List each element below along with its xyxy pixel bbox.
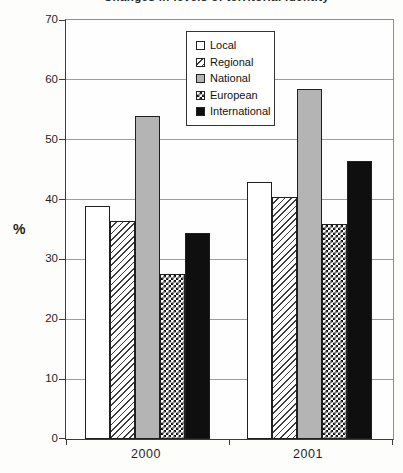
y-axis-tick-label-40: 40 <box>0 192 58 206</box>
y-axis-tick-label-60: 60 <box>0 72 58 86</box>
legend-label-regional: Regional <box>210 57 253 68</box>
x-axis-tick-2 <box>392 439 393 445</box>
y-axis-tick-label-30: 30 <box>0 251 58 265</box>
legend-item-regional: Regional <box>196 57 274 68</box>
bar-chart-figure: Changes in levels of territorial identit… <box>0 0 403 473</box>
y-axis-tick-label-0: 0 <box>0 431 58 445</box>
plot-area: LocalRegionalNationalEuropeanInternation… <box>65 19 394 440</box>
y-axis-tick-label-20: 20 <box>0 311 58 325</box>
y-axis-tick-label-50: 50 <box>0 132 58 146</box>
y-axis-tick-60 <box>59 79 66 80</box>
figure-title-text: Changes in levels of territorial identit… <box>30 0 403 3</box>
legend-label-european: European <box>210 90 258 101</box>
x-axis-label-2000: 2000 <box>131 447 161 461</box>
bar-national-2000 <box>135 116 160 439</box>
y-axis-tick-70 <box>59 20 66 21</box>
bar-regional-2001 <box>272 197 297 439</box>
legend-swatch-local <box>196 41 205 50</box>
bar-local-2001 <box>247 182 272 439</box>
bar-international-2001 <box>347 161 372 439</box>
legend-swatch-national <box>196 74 205 83</box>
y-axis-tick-0 <box>59 438 66 439</box>
bar-european-2001 <box>322 224 347 439</box>
legend-label-national: National <box>210 73 250 84</box>
y-axis-tick-10 <box>59 379 66 380</box>
legend-item-international: International <box>196 106 274 117</box>
y-axis-tick-20 <box>59 319 66 320</box>
x-axis-tick-0 <box>66 439 67 445</box>
x-axis-tick-1 <box>229 439 230 445</box>
legend-item-local: Local <box>196 40 274 51</box>
y-axis-tick-label-10: 10 <box>0 371 58 385</box>
legend-swatch-regional <box>196 58 205 67</box>
y-axis-tick-50 <box>59 139 66 140</box>
legend-swatch-international <box>196 107 205 116</box>
bar-local-2000 <box>85 206 110 439</box>
gridline-50 <box>66 139 393 140</box>
x-axis-label-2001: 2001 <box>293 447 323 461</box>
bar-international-2000 <box>185 233 210 440</box>
legend-label-local: Local <box>210 40 236 51</box>
y-axis-tick-40 <box>59 199 66 200</box>
y-axis-tick-label-70: 70 <box>0 12 58 26</box>
y-axis-tick-30 <box>59 259 66 260</box>
legend-item-european: European <box>196 90 274 101</box>
y-axis-label: % <box>13 221 25 237</box>
legend-label-international: International <box>210 106 271 117</box>
legend-item-national: National <box>196 73 274 84</box>
figure-title-clipped: Changes in levels of territorial identit… <box>30 0 403 6</box>
gridline-40 <box>66 199 393 200</box>
legend: LocalRegionalNationalEuropeanInternation… <box>186 31 275 126</box>
bar-european-2000 <box>160 274 185 439</box>
legend-swatch-european <box>196 91 205 100</box>
bar-regional-2000 <box>110 221 135 439</box>
bar-national-2001 <box>297 89 322 439</box>
